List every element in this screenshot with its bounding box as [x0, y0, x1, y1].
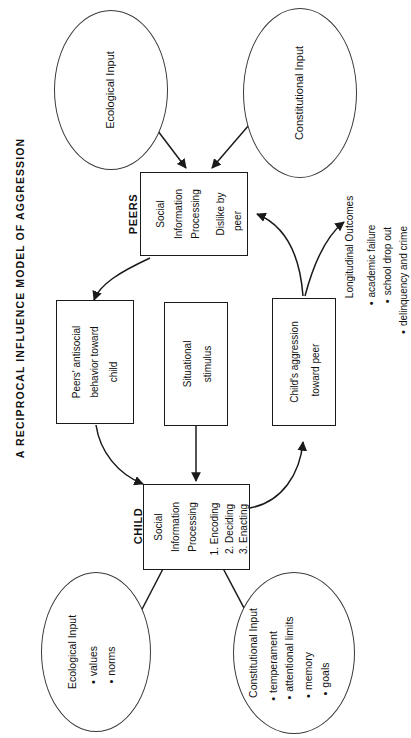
- longitudinal-outcome-item-2: school drop out: [381, 227, 394, 303]
- node-ecological-input-top: Ecological Input: [54, 10, 168, 170]
- situational-stimulus-line1: Situational: [182, 341, 194, 388]
- figure-title: A RECIPROCAL INFLUENCE MODEL OF AGGRESSI…: [14, 133, 26, 463]
- constitutional-input-bottom-item-2: attentional limits: [283, 616, 296, 699]
- child-sip-step-2: 2. Deciding: [224, 504, 236, 554]
- ecological-input-bottom-item-1: values: [87, 646, 100, 684]
- node-constitutional-input-top-label: Constitutional Input: [293, 46, 306, 140]
- child-sip-step-3: 3. Enacting: [238, 504, 250, 554]
- longitudinal-outcomes-heading: Longitudinal Outcomes: [344, 196, 356, 298]
- child-aggression-line1: Child's aggression: [289, 321, 301, 402]
- ecological-input-bottom-item-2: norms: [105, 646, 118, 683]
- diagram-canvas: A RECIPROCAL INFLUENCE MODEL OF AGGRESSI…: [0, 0, 411, 738]
- node-child-social-information-processing: Social Information Processing 1. Encodin…: [143, 484, 250, 570]
- peers-sip-line5: peer: [232, 211, 244, 231]
- child-aggression-line2: toward peer: [310, 343, 322, 396]
- edge-antisocial-to-child: [96, 425, 143, 484]
- peers-sip-line1: Social: [155, 200, 167, 227]
- node-peers-antisocial-behavior: Peers' antisocial behavior toward child: [56, 300, 134, 424]
- edge-aggression-to-peers: [257, 214, 303, 296]
- node-constitutional-input-top: Constitutional Input: [243, 8, 357, 178]
- peers-antisocial-line2: behavior toward: [89, 326, 101, 397]
- peers-sip-line3: Processing: [190, 189, 202, 238]
- edge-child-to-aggression: [250, 442, 303, 508]
- situational-stimulus-line2: stimulus: [202, 346, 214, 383]
- node-situational-stimulus: Situational stimulus: [164, 302, 228, 426]
- child-sip-line2: Information: [170, 502, 182, 552]
- node-longitudinal-outcomes: Longitudinal Outcomes academic failure s…: [336, 172, 406, 322]
- peers-antisocial-line3: child: [108, 361, 120, 382]
- child-sip-line3: Processing: [187, 502, 199, 551]
- longitudinal-outcome-item-3: delinquency and crime: [397, 226, 410, 334]
- constitutional-input-bottom-item-4: goals: [319, 662, 332, 695]
- node-constitutional-input-bottom: Constitutional Input temperament attenti…: [233, 572, 355, 734]
- edge-peers-to-antisocial: [94, 258, 150, 300]
- constitutional-input-bottom-item-1: temperament: [267, 631, 280, 701]
- constitutional-input-bottom-heading: Constitutional Input: [247, 608, 260, 698]
- group-label-peers: PEERS: [127, 191, 139, 237]
- node-ecological-input-top-label: Ecological Input: [104, 51, 117, 129]
- peers-sip-line4: Dislike by: [215, 193, 227, 236]
- child-sip-line1: Social: [153, 513, 165, 540]
- child-sip-step-1: 1. Encoding: [209, 502, 221, 555]
- constitutional-input-bottom-item-3: memory: [302, 653, 315, 699]
- peers-sip-line2: Information: [173, 189, 185, 239]
- node-child-aggression-toward-peer: Child's aggression toward peer: [272, 298, 336, 426]
- node-peers-social-information-processing: Social Information Processing Dislike by…: [140, 172, 248, 256]
- ecological-input-bottom-heading: Ecological Input: [66, 615, 79, 689]
- node-ecological-input-bottom: Ecological Input values norms: [41, 572, 151, 732]
- longitudinal-outcome-item-1: academic failure: [365, 225, 378, 306]
- peers-antisocial-line1: Peers' antisocial: [71, 326, 83, 399]
